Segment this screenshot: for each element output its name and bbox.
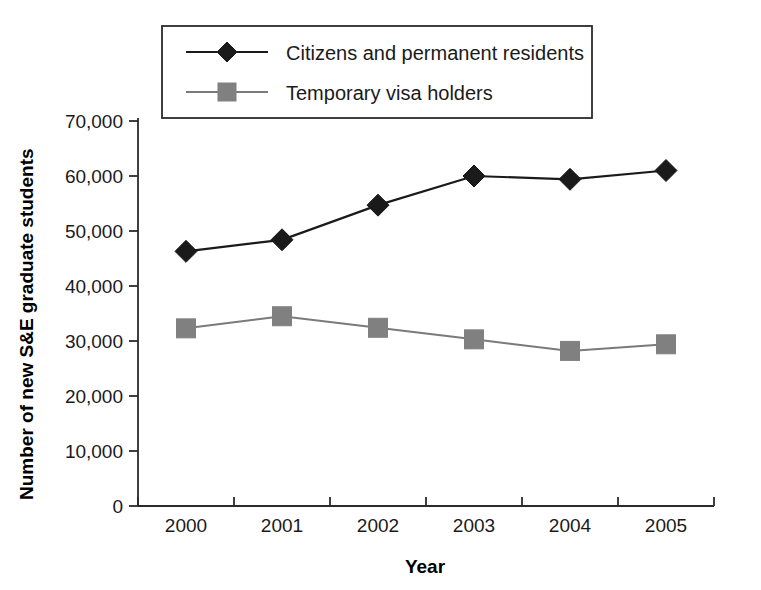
square-marker-icon: [273, 307, 292, 326]
diamond-marker-icon: [175, 240, 197, 262]
y-tick-label: 70,000: [65, 111, 123, 132]
diamond-marker-icon: [367, 194, 389, 216]
series-2: [177, 307, 676, 361]
y-tick-label: 40,000: [65, 276, 123, 297]
diamond-marker-icon: [463, 165, 485, 187]
square-marker-icon: [218, 83, 236, 101]
x-axis-title: Year: [405, 556, 446, 577]
square-marker-icon: [657, 335, 676, 354]
x-tick-label: 2001: [261, 515, 303, 536]
x-tick-label: 2005: [645, 515, 687, 536]
legend-label: Citizens and permanent residents: [286, 42, 584, 64]
x-tick-label: 2002: [357, 515, 399, 536]
y-axis-ticks: [129, 121, 138, 506]
chart-legend: Citizens and permanent residentsTemporar…: [162, 26, 592, 118]
square-marker-icon: [369, 318, 388, 337]
square-marker-icon: [465, 330, 484, 349]
diamond-marker-icon: [559, 168, 581, 190]
diamond-marker-icon: [655, 160, 677, 182]
chart-canvas: 010,00020,00030,00040,00050,00060,00070,…: [0, 0, 761, 590]
y-tick-label: 20,000: [65, 386, 123, 407]
legend-label: Temporary visa holders: [286, 82, 493, 104]
x-tick-label: 2000: [165, 515, 207, 536]
square-marker-icon: [177, 319, 196, 338]
y-axis-title: Number of new S&E graduate students: [16, 148, 37, 500]
diamond-marker-icon: [271, 229, 293, 251]
y-tick-label: 60,000: [65, 166, 123, 187]
y-tick-label: 10,000: [65, 441, 123, 462]
data-series-layer: [175, 160, 677, 361]
legend-border: [162, 26, 592, 118]
line-chart: 010,00020,00030,00040,00050,00060,00070,…: [0, 0, 761, 590]
y-tick-label: 50,000: [65, 221, 123, 242]
y-axis-tick-labels: 010,00020,00030,00040,00050,00060,00070,…: [65, 111, 123, 517]
series-line: [186, 316, 666, 351]
series-1: [175, 160, 677, 263]
x-tick-label: 2003: [453, 515, 495, 536]
y-tick-label: 30,000: [65, 331, 123, 352]
x-axis-ticks: [138, 497, 714, 506]
series-line: [186, 171, 666, 252]
y-tick-label: 0: [112, 496, 123, 517]
x-axis-tick-labels: 200020012002200320042005: [165, 515, 687, 536]
x-tick-label: 2004: [549, 515, 592, 536]
square-marker-icon: [561, 341, 580, 360]
